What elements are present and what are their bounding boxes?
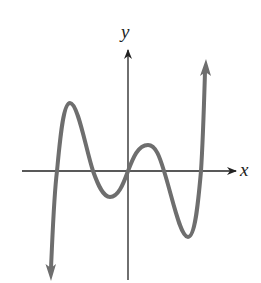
function-graph <box>0 0 261 283</box>
y-axis-label: y <box>121 22 129 41</box>
x-axis-label: x <box>240 160 248 179</box>
